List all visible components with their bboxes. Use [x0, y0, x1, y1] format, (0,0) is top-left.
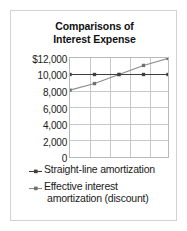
chart-title-line-1: Comparisons of: [11, 20, 178, 33]
y-tick-label-2000: 2,000: [11, 138, 67, 148]
chart-title-line-2: Interest Expense: [11, 33, 178, 46]
data-point-marker: [166, 73, 168, 76]
data-point-marker: [117, 73, 120, 76]
legend-label-effective-interest-line-2: amortization (discount): [44, 192, 149, 205]
series-plot-svg: [70, 58, 168, 157]
plot-area: [69, 57, 169, 158]
data-point-marker: [70, 89, 72, 92]
legend-label-straight-line: Straight-line amortization: [44, 163, 155, 176]
y-axis-tick-labels: $12,000 10,000 8,000 6,000 4,000 2,000 0: [11, 55, 67, 160]
data-point-marker: [142, 64, 145, 67]
legend-item-straight-line[interactable]: Straight-line amortization: [11, 163, 178, 176]
y-tick-label-6000: 6,000: [11, 105, 67, 115]
legend-label-straight-line-line-1: Straight-line amortization: [44, 163, 155, 175]
data-point-marker: [93, 73, 96, 76]
legend-label-effective-interest: Effective interest amortization (discoun…: [44, 180, 149, 205]
legend-marker-effective-interest-icon: [29, 185, 42, 192]
data-point-marker: [93, 82, 96, 85]
chart-legend: Straight-line amortization Effective int…: [11, 163, 178, 209]
y-tick-label-8000: 8,000: [11, 88, 67, 98]
chart-title: Comparisons of Interest Expense: [11, 20, 178, 45]
y-tick-label-12000: $12,000: [11, 55, 67, 65]
y-tick-label-10000: 10,000: [11, 71, 67, 81]
legend-item-effective-interest[interactable]: Effective interest amortization (discoun…: [11, 180, 178, 205]
data-point-marker: [142, 73, 145, 76]
data-point-marker: [70, 73, 72, 76]
plot-wrapper: $12,000 10,000 8,000 6,000 4,000 2,000 0: [11, 55, 178, 160]
data-point-marker: [166, 58, 168, 60]
legend-label-effective-interest-line-1: Effective interest: [44, 180, 118, 192]
y-tick-label-4000: 4,000: [11, 121, 67, 131]
chart-figure: Comparisons of Interest Expense $12,000 …: [10, 10, 177, 221]
legend-marker-straight-line-icon: [29, 168, 42, 175]
